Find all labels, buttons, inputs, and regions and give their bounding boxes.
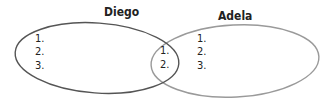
adela-item-2: 2. [197,46,206,58]
adela-title: Adela [218,9,252,23]
adela-ellipse [149,21,321,102]
diego-title: Diego [104,5,139,19]
intersection-item-1: 1. [160,45,169,57]
intersection-item-2: 2. [160,59,169,71]
diego-item-3: 3. [35,60,44,72]
adela-item-3: 3. [197,60,206,72]
diego-item-1: 1. [35,33,44,45]
adela-item-1: 1. [197,33,206,45]
diego-item-2: 2. [35,46,44,58]
diego-ellipse [13,17,181,98]
